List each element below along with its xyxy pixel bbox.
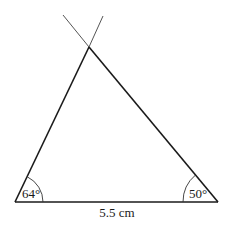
construction-line-left-extension bbox=[89, 16, 103, 47]
angle-label-right: 50° bbox=[189, 186, 207, 201]
triangle-diagram: 64° 50° 5.5 cm bbox=[0, 0, 233, 229]
angle-label-left: 64° bbox=[22, 186, 40, 201]
triangle-side-right bbox=[89, 47, 218, 202]
construction-line-right-extension bbox=[63, 15, 89, 47]
triangle-side-left bbox=[15, 47, 89, 202]
base-length-label: 5.5 cm bbox=[99, 205, 134, 220]
